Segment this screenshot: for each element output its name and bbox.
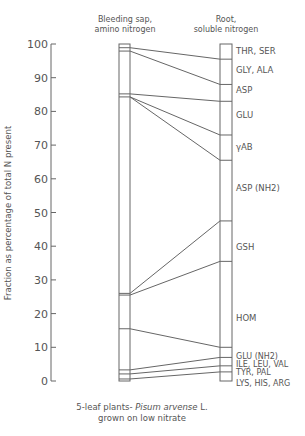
connector-line: [130, 97, 220, 160]
column-label: soluble nitrogen: [194, 25, 259, 34]
category-label: ILE, LEU, VAL: [236, 360, 289, 369]
category-label: TYR, PAL: [235, 368, 271, 377]
connector-line: [130, 329, 220, 348]
connector-line: [130, 94, 220, 101]
y-tick-label: 20: [34, 308, 48, 321]
category-label: GLY, ALA: [236, 65, 274, 75]
category-label: ASP: [236, 85, 252, 95]
category-label: GLU: [236, 110, 253, 120]
column-label: Root,: [216, 15, 237, 24]
category-label: LYS, HIS, ARG: [236, 379, 290, 388]
category-label: γAB: [236, 142, 253, 152]
connector-line: [130, 48, 220, 59]
y-axis-label: Fraction as percentage of total N presen…: [3, 125, 13, 300]
y-tick-label: 100: [27, 38, 48, 51]
column-label: amino nitrogen: [95, 25, 156, 34]
category-label: ASP (NH2): [236, 183, 280, 193]
connector-line: [130, 221, 220, 293]
caption-line-1: 5-leaf plants- Pisum arvense L.: [76, 402, 207, 412]
column-root: [220, 44, 232, 381]
caption-line-2: grown on low nitrate: [98, 413, 186, 423]
connector-line: [130, 97, 220, 135]
y-tick-label: 0: [41, 375, 48, 388]
category-label: GLU (NH2): [236, 352, 278, 361]
connector-line: [130, 51, 220, 84]
nitrogen-fraction-chart: 0102030405060708090100Fraction as percen…: [0, 0, 305, 436]
category-label: THR, SER: [235, 46, 276, 56]
column-bleeding-sap: [119, 44, 130, 381]
category-label: HOM: [236, 313, 256, 323]
column-label: Bleeding sap,: [98, 15, 152, 24]
y-tick-label: 50: [34, 207, 48, 220]
y-tick-label: 10: [34, 341, 48, 354]
connector-line: [130, 261, 220, 295]
y-tick-label: 60: [34, 173, 48, 186]
y-tick-label: 40: [34, 240, 48, 253]
y-tick-label: 90: [34, 72, 48, 85]
connector-line: [130, 357, 220, 369]
y-tick-label: 80: [34, 105, 48, 118]
category-label: GSH: [236, 242, 254, 252]
y-tick-label: 30: [34, 274, 48, 287]
y-tick-label: 70: [34, 139, 48, 152]
